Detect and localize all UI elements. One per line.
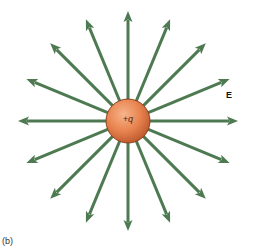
field-line: [35, 129, 110, 160]
field-line: [57, 135, 114, 192]
charge-label: +q: [113, 114, 143, 124]
field-line: [136, 28, 167, 103]
field-line: [89, 139, 120, 214]
field-line: [142, 135, 199, 192]
field-line: [146, 82, 221, 113]
field-line: [35, 82, 110, 113]
field-line: [89, 28, 120, 103]
field-line: [142, 50, 199, 107]
field-line: [146, 129, 221, 160]
electric-field-diagram: [0, 0, 254, 249]
field-line: [136, 139, 167, 214]
field-line: [57, 50, 114, 107]
field-label-e: E: [226, 90, 232, 100]
panel-label: (b): [2, 236, 13, 246]
